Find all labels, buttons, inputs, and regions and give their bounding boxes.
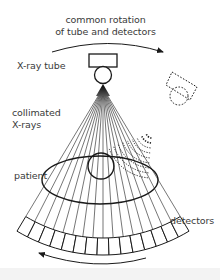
detector-cell (73, 236, 87, 254)
xray-tube-icon (89, 54, 117, 96)
label-rotation: common rotation of tube and detectors (48, 14, 163, 38)
rotated-beam-arc (128, 141, 150, 158)
ct-scanner-diagram (0, 0, 220, 280)
patient-head-circle (88, 153, 114, 179)
xray-beam-line (93, 88, 103, 238)
label-rotation-line2: of tube and detectors (48, 26, 163, 38)
label-rotation-line1: common rotation (48, 14, 163, 26)
rotation-arrow-top (52, 44, 163, 53)
xray-beam-line (83, 88, 103, 237)
rotated-beam-arc (142, 136, 151, 143)
rotated-xray-tube-dashed-icon (166, 72, 197, 105)
detector-cell (97, 238, 109, 255)
label-collimated-line2: X-rays (12, 119, 61, 131)
label-detectors: detectors (170, 215, 214, 227)
detector-cell (85, 237, 98, 255)
label-patient: patient (14, 170, 47, 182)
xray-beam-line (103, 88, 113, 238)
patient-body-ellipse (42, 156, 158, 204)
xray-beam-line (103, 88, 143, 233)
bottom-band (0, 268, 220, 280)
rotated-beam-arc (146, 134, 151, 138)
xray-beam-line (103, 88, 171, 222)
label-xray-tube: X-ray tube (17, 60, 65, 72)
label-collimated-xrays: collimated X-rays (12, 107, 61, 131)
label-collimated-line1: collimated (12, 107, 61, 119)
